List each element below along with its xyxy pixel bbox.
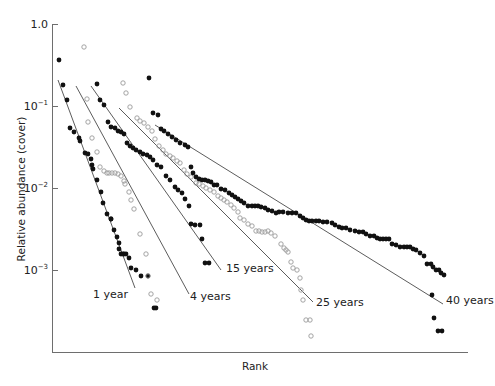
- data-point-filled: [430, 293, 435, 298]
- data-point-filled: [89, 157, 94, 162]
- data-point-open: [289, 260, 293, 264]
- data-point-filled: [101, 201, 106, 206]
- y-axis: 1.0 10−1 10−2 10−3 Relative abundance (c…: [15, 18, 58, 353]
- data-point-filled: [86, 152, 91, 157]
- data-point-filled: [215, 183, 220, 188]
- data-point-filled: [178, 141, 183, 146]
- series-label-15-years: 15 years: [226, 262, 274, 275]
- y-tick-label-1e-1: 10−1: [24, 99, 48, 113]
- data-point-filled: [72, 130, 77, 135]
- data-point-filled: [317, 219, 322, 224]
- fit-line-4-years: [76, 86, 189, 294]
- data-point-filled: [418, 251, 423, 256]
- y-tick-label-1: 1.0: [31, 18, 49, 31]
- data-point-open: [301, 298, 305, 302]
- data-point-filled: [105, 212, 110, 217]
- data-point-filled: [242, 201, 247, 206]
- data-point-filled: [162, 129, 167, 134]
- data-point-filled: [151, 158, 156, 163]
- data-point-filled: [109, 217, 114, 222]
- data-point-filled: [117, 241, 122, 246]
- data-point-filled: [98, 98, 103, 103]
- data-point-open: [212, 190, 216, 194]
- data-point-filled: [281, 210, 286, 215]
- data-point-filled: [186, 145, 191, 150]
- data-point-filled: [294, 211, 299, 216]
- x-axis-label: Rank: [242, 360, 269, 372]
- data-point-open: [86, 120, 90, 124]
- data-point-filled: [122, 132, 127, 137]
- x-axis: Rank: [52, 353, 468, 373]
- series-1-year: 1 year: [57, 58, 159, 311]
- series-label-40-years: 40 years: [446, 294, 494, 307]
- data-point-filled: [442, 273, 447, 278]
- data-point-filled: [127, 256, 132, 261]
- series-25-years: 25 years: [119, 81, 364, 338]
- data-point-open: [298, 276, 302, 280]
- data-point-filled: [174, 138, 179, 143]
- data-point-open: [295, 268, 299, 272]
- data-point-filled: [139, 274, 144, 279]
- data-point-filled: [159, 165, 164, 170]
- data-point-filled: [99, 190, 104, 195]
- data-point-open: [95, 150, 99, 154]
- data-point-filled: [156, 113, 161, 118]
- data-point-filled: [112, 228, 117, 233]
- series-label-4-years: 4 years: [190, 290, 231, 303]
- y-tick-label-1e-2: 10−2: [24, 181, 48, 195]
- data-point-open: [132, 207, 136, 211]
- data-point-filled: [151, 111, 156, 116]
- data-point-open: [128, 105, 132, 109]
- data-point-filled: [200, 237, 205, 242]
- data-point-filled: [129, 266, 134, 271]
- data-point-filled: [90, 163, 95, 168]
- data-point-open: [309, 334, 313, 338]
- data-point-filled: [102, 103, 107, 108]
- data-point-open: [127, 190, 131, 194]
- data-point-open: [189, 175, 193, 179]
- data-point-open: [144, 252, 148, 256]
- data-point-open: [182, 168, 186, 172]
- data-point-filled: [141, 152, 146, 157]
- series-15-years: 15 years: [91, 82, 274, 275]
- data-point-filled: [422, 254, 427, 259]
- data-point-open: [129, 198, 133, 202]
- data-point-filled: [106, 120, 111, 125]
- data-point-filled: [440, 329, 445, 334]
- data-point-open: [242, 218, 246, 222]
- data-point-filled: [147, 76, 152, 81]
- data-point-open: [250, 224, 254, 228]
- data-point-filled: [259, 205, 264, 210]
- data-point-filled: [414, 248, 419, 253]
- y-axis-label: Relative abundance (cover): [15, 117, 27, 262]
- y-tick-label-1e-3: 10−3: [24, 263, 48, 277]
- data-point-filled: [68, 126, 73, 131]
- data-point-filled: [223, 188, 228, 193]
- rank-abundance-chart: 1.0 10−1 10−2 10−3 Relative abundance (c…: [0, 0, 495, 386]
- data-point-filled: [65, 98, 70, 103]
- data-point-filled: [95, 178, 100, 183]
- data-point-filled: [187, 204, 192, 209]
- data-point-filled: [348, 228, 353, 233]
- data-point-filled: [170, 135, 175, 140]
- data-point-filled: [387, 237, 392, 242]
- data-point-filled: [193, 223, 198, 228]
- data-point-open: [146, 125, 150, 129]
- data-point-filled: [78, 139, 83, 144]
- data-point-filled: [109, 125, 114, 130]
- data-point-filled: [180, 191, 185, 196]
- data-point-open: [124, 91, 128, 95]
- data-point-open: [279, 242, 283, 246]
- data-point-filled: [168, 178, 173, 183]
- data-point-open: [273, 234, 277, 238]
- data-point-filled: [353, 229, 358, 234]
- series-label-1-year: 1 year: [93, 288, 129, 301]
- data-point-open: [98, 165, 102, 169]
- data-point-open: [142, 121, 146, 125]
- data-point-filled: [219, 187, 224, 192]
- data-point-filled: [189, 222, 194, 227]
- data-point-filled: [432, 316, 437, 321]
- data-point-filled: [166, 132, 171, 137]
- data-point-filled: [115, 235, 120, 240]
- data-point-filled: [183, 197, 188, 202]
